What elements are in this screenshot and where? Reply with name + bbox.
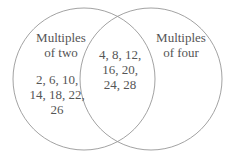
right-set-title: Multiples of four <box>146 30 216 60</box>
venn-diagram: Multiples of two 2, 6, 10, 14, 18, 22, 2… <box>0 0 231 160</box>
intersection-values: 4, 8, 12, 16, 20, 24, 28 <box>86 47 154 92</box>
